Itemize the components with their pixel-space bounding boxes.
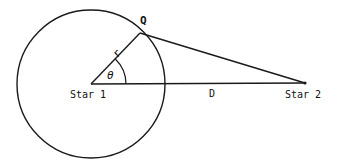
label-d: D xyxy=(209,88,215,99)
angle-theta-arc xyxy=(115,59,126,84)
label-theta: θ xyxy=(107,69,114,82)
label-r: r xyxy=(110,46,124,60)
radius-line-r xyxy=(91,33,140,84)
star-geometry-diagram: Q r θ Star 1 D Star 2 xyxy=(0,0,340,162)
label-q: Q xyxy=(140,14,147,27)
label-star1: Star 1 xyxy=(70,89,106,100)
label-star2: Star 2 xyxy=(285,89,321,100)
distance-line-d xyxy=(91,83,305,84)
star2-point xyxy=(303,81,306,84)
